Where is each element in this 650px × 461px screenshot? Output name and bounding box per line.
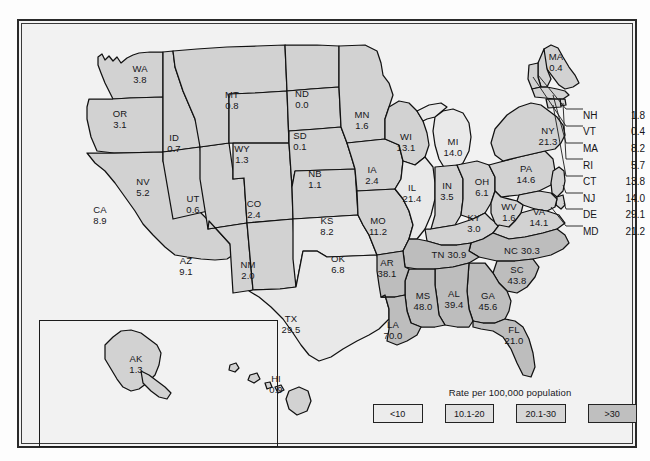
callout-row-MA[interactable]: MA8.2 xyxy=(583,140,645,157)
figure-container: WA3.8OR3.1ID0.7MT0.8ND0.0SD0.1WY1.3NB1.1… xyxy=(0,0,650,461)
callout-value: 1.8 xyxy=(613,110,645,121)
legend-swatch-label: 20.1-30 xyxy=(525,409,556,419)
legend-swatch-1[interactable]: <10 xyxy=(373,404,423,423)
callout-abbr: DE xyxy=(583,209,605,220)
callout-value: 29.1 xyxy=(613,209,645,220)
legend-swatch-label: <10 xyxy=(390,409,405,419)
callout-row-MD[interactable]: MD21.2 xyxy=(583,223,645,240)
callout-abbr: MA xyxy=(583,143,605,154)
callout-row-DE[interactable]: DE29.1 xyxy=(583,207,645,224)
state-KS[interactable] xyxy=(292,169,358,219)
legend-swatches: <1010.1-2020.1-30>30 xyxy=(373,404,637,423)
legend-swatch-3[interactable]: 20.1-30 xyxy=(516,404,566,423)
map-canvas: WA3.8OR3.1ID0.7MT0.8ND0.0SD0.1WY1.3NB1.1… xyxy=(17,19,637,448)
callout-row-CT[interactable]: CT13.8 xyxy=(583,173,645,190)
callout-value: 5.7 xyxy=(613,160,645,171)
callout-value: 13.8 xyxy=(613,176,645,187)
state-WA[interactable] xyxy=(98,52,163,99)
callout-abbr: RI xyxy=(583,160,605,171)
state-OR[interactable] xyxy=(87,97,163,153)
legend: Rate per 100,000 population <1010.1-2020… xyxy=(369,387,637,423)
state-WY[interactable] xyxy=(229,91,289,143)
callout-value: 21.2 xyxy=(613,226,645,237)
callout-value: 14.0 xyxy=(613,193,645,204)
state-FL[interactable] xyxy=(473,319,535,377)
callout-list: NH1.8VT0.4MA8.2RI5.7CT13.8NJ14.0DE29.1MD… xyxy=(583,107,645,240)
callout-abbr: MD xyxy=(583,226,605,237)
callout-value: 0.4 xyxy=(613,126,645,137)
callout-row-VT[interactable]: VT0.4 xyxy=(583,124,645,141)
legend-title: Rate per 100,000 population xyxy=(383,387,637,398)
state-MD[interactable] xyxy=(517,191,557,211)
callout-abbr: NJ xyxy=(583,193,605,204)
state-DE[interactable] xyxy=(556,195,565,209)
state-NM[interactable] xyxy=(247,219,296,290)
state-MA[interactable] xyxy=(532,87,569,99)
alaska-hawaii-inset-frame xyxy=(39,320,278,447)
hawaii-island-big xyxy=(286,387,311,415)
callout-abbr: NH xyxy=(583,110,605,121)
state-OH[interactable] xyxy=(457,161,495,219)
legend-swatch-2[interactable]: 10.1-20 xyxy=(445,404,495,423)
callout-row-NH[interactable]: NH1.8 xyxy=(583,107,645,124)
callout-value: 8.2 xyxy=(613,143,645,154)
callout-abbr: VT xyxy=(583,126,605,137)
state-IN[interactable] xyxy=(431,165,463,229)
state-ND[interactable] xyxy=(285,45,339,91)
state-NJ[interactable] xyxy=(551,167,565,197)
callout-row-NJ[interactable]: NJ14.0 xyxy=(583,190,645,207)
legend-swatch-4[interactable]: >30 xyxy=(588,404,638,423)
callout-row-RI[interactable]: RI5.7 xyxy=(583,157,645,174)
legend-swatch-label: >30 xyxy=(605,409,620,419)
state-AR[interactable] xyxy=(377,251,409,297)
legend-swatch-label: 10.1-20 xyxy=(454,409,485,419)
callout-abbr: CT xyxy=(583,176,605,187)
